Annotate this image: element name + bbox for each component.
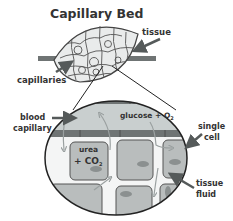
label-glucose-o2: glucose + O2 xyxy=(120,111,174,121)
label-blood-capillary: bloodcapillary xyxy=(13,113,52,133)
cell-middle xyxy=(117,140,153,180)
tissue-network xyxy=(54,26,138,82)
cell-right xyxy=(163,140,197,178)
label-co2: + CO2 xyxy=(74,156,103,167)
arrow-single-cell xyxy=(188,134,202,146)
label-capillaries: capillaries xyxy=(17,75,66,85)
nucleus xyxy=(137,161,149,167)
label-single-cell: singlecell xyxy=(198,122,226,142)
diagram-title: Capillary Bed xyxy=(50,6,143,21)
arrow-tissue xyxy=(136,39,160,50)
label-urea: urea xyxy=(79,145,98,154)
nucleus xyxy=(120,191,132,197)
nucleus xyxy=(169,159,181,165)
label-tissue-fluid: tissuefluid xyxy=(196,179,224,199)
label-tissue: tissue xyxy=(142,27,171,37)
capillary-bed-diagram: Capillary Bed tissue capillaries xyxy=(0,0,233,221)
